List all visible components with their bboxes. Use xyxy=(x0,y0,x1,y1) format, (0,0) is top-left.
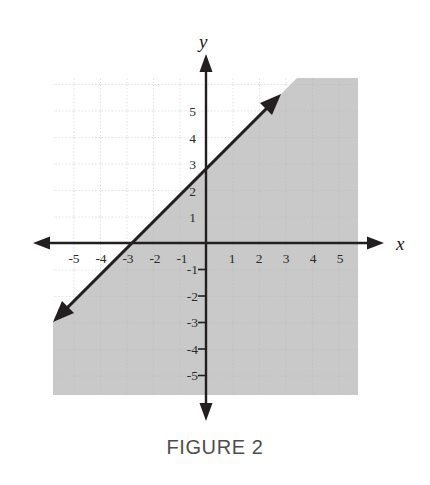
x-tick-label-1: 1 xyxy=(229,251,236,266)
y-tick-label-neg2: -2 xyxy=(187,289,198,304)
x-tick-label-neg4: -4 xyxy=(95,251,106,266)
y-tick-label-neg5: -5 xyxy=(187,368,198,383)
x-tick-label-neg5: -5 xyxy=(68,251,79,266)
x-tick-label-5: 5 xyxy=(337,251,344,266)
y-tick-label-neg4: -4 xyxy=(187,342,198,357)
y-axis-label: y xyxy=(197,31,208,52)
x-tick-label-2: 2 xyxy=(256,251,263,266)
x-axis-label: x xyxy=(395,233,405,254)
y-tick-label-4: 4 xyxy=(189,131,196,146)
x-tick-label-3: 3 xyxy=(283,251,290,266)
x-tick-label-neg3: -3 xyxy=(122,251,133,266)
y-tick-label-neg1: -1 xyxy=(187,262,198,277)
coordinate-plane-graph: x y -5 -4 -3 -2 -1 1 2 3 4 5 5 4 3 2 1 -… xyxy=(0,0,430,485)
x-axis-left-arrowhead xyxy=(33,237,50,250)
x-tick-label-4: 4 xyxy=(310,251,317,266)
y-axis-top-arrowhead xyxy=(200,54,213,72)
y-tick-label-3: 3 xyxy=(189,157,196,172)
y-tick-label-1: 1 xyxy=(189,210,196,225)
y-tick-label-5: 5 xyxy=(189,104,196,119)
x-axis-right-arrowhead xyxy=(367,237,384,250)
x-tick-label-neg2: -2 xyxy=(149,251,160,266)
y-tick-label-2: 2 xyxy=(189,184,196,199)
y-axis-bottom-arrowhead xyxy=(200,403,213,421)
y-tick-label-neg3: -3 xyxy=(187,315,198,330)
figure-caption: FIGURE 2 xyxy=(0,436,430,459)
figure-container: x y -5 -4 -3 -2 -1 1 2 3 4 5 5 4 3 2 1 -… xyxy=(0,0,430,485)
